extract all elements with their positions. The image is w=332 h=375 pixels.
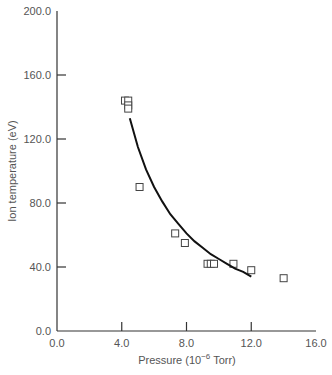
y-tick-label: 40.0 xyxy=(30,261,51,273)
data-point-square xyxy=(172,230,179,237)
y-tick-label: 0.0 xyxy=(36,325,51,337)
data-point-square xyxy=(136,184,143,191)
scatter-chart: 0.040.080.0120.0160.0200.00.04.08.012.01… xyxy=(0,0,332,375)
data-point-square xyxy=(248,267,255,274)
x-tick-label: 4.0 xyxy=(114,337,129,349)
x-tick-label: 8.0 xyxy=(179,337,194,349)
y-tick-label: 80.0 xyxy=(30,197,51,209)
x-tick-label: 16.0 xyxy=(305,337,326,349)
data-point-square xyxy=(280,275,287,282)
y-tick-label: 200.0 xyxy=(23,5,51,17)
data-point-square xyxy=(181,240,188,247)
x-tick-label: 12.0 xyxy=(241,337,262,349)
x-axis-title: Pressure (10−6 Torr) xyxy=(138,352,236,366)
y-tick-label: 120.0 xyxy=(23,133,51,145)
y-axis-title: Ion temperature (eV) xyxy=(6,120,18,222)
y-tick-label: 160.0 xyxy=(23,69,51,81)
data-point-square xyxy=(211,260,218,267)
x-tick-label: 0.0 xyxy=(49,337,64,349)
data-point-square xyxy=(125,105,132,112)
plot-area xyxy=(121,97,287,282)
fit-curve xyxy=(130,118,252,276)
axes: 0.040.080.0120.0160.0200.00.04.08.012.01… xyxy=(23,5,326,349)
